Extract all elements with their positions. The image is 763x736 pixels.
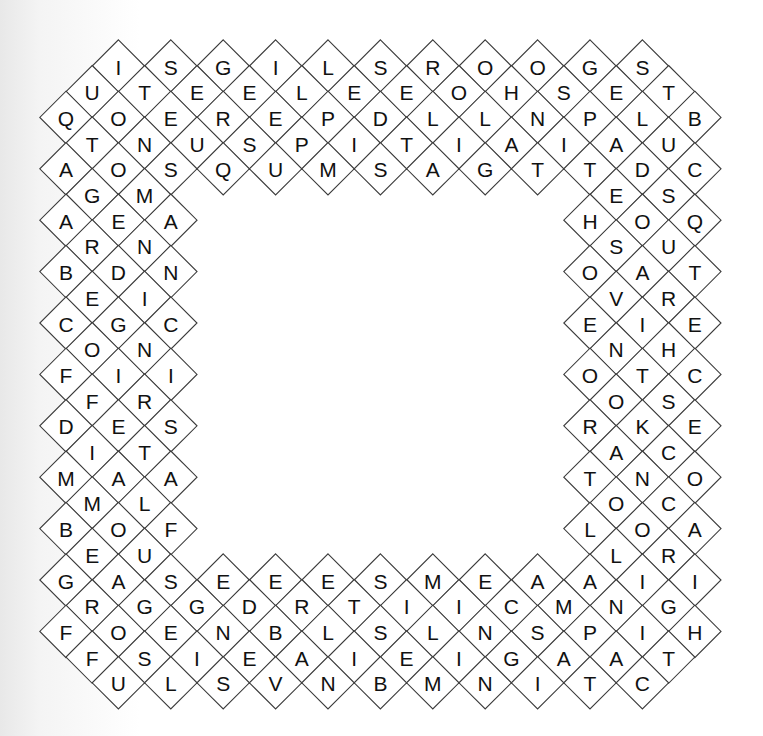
- cell-letter: L: [584, 518, 596, 541]
- cell-letter: L: [322, 621, 334, 644]
- cell-letter: L: [479, 107, 491, 130]
- cell-letter: A: [609, 441, 623, 464]
- cell-letter: C: [661, 492, 676, 515]
- cell-letter: M: [424, 570, 442, 593]
- cell-letter: M: [424, 672, 442, 695]
- cell-letter: O: [634, 518, 650, 541]
- cell-letter: P: [295, 133, 309, 156]
- cell-letter: E: [269, 107, 283, 130]
- cell-letter: R: [85, 235, 100, 258]
- cell-letter: C: [504, 595, 519, 618]
- cell-letter: M: [555, 595, 573, 618]
- cell-letter: T: [636, 364, 649, 387]
- cell-letter: E: [216, 570, 230, 593]
- cell-letter: R: [661, 287, 676, 310]
- cell-letter: I: [535, 672, 541, 695]
- cell-letter: G: [58, 570, 74, 593]
- cell-letter: F: [86, 647, 99, 670]
- cell-letter: N: [137, 338, 152, 361]
- cell-letter: S: [662, 390, 676, 413]
- cell-letter: B: [688, 107, 702, 130]
- cell-letter: O: [451, 81, 467, 104]
- cell-letter: I: [351, 133, 357, 156]
- cell-letter: T: [662, 647, 675, 670]
- cell-letter: T: [86, 133, 99, 156]
- cell-letter: S: [164, 158, 178, 181]
- cell-letter: E: [609, 184, 623, 207]
- cell-letter: N: [635, 467, 650, 490]
- cell-letter: S: [531, 621, 545, 644]
- cell-letter: C: [58, 313, 73, 336]
- cell-letter: S: [635, 56, 649, 79]
- cell-letter: D: [58, 415, 73, 438]
- cell-letter: H: [582, 210, 597, 233]
- cell-letter: F: [60, 364, 73, 387]
- cell-letter: A: [688, 518, 702, 541]
- cell-letter: I: [168, 364, 174, 387]
- cell-letter: A: [295, 647, 309, 670]
- cell-letter: A: [164, 467, 178, 490]
- cell-letter: N: [137, 133, 152, 156]
- cell-letter: H: [687, 621, 702, 644]
- cell-letter: O: [608, 492, 624, 515]
- cell-letter: A: [111, 570, 125, 593]
- cell-letter: E: [190, 81, 204, 104]
- cell-letter: R: [294, 595, 309, 618]
- cell-letter: E: [347, 81, 361, 104]
- cell-letter: L: [427, 107, 439, 130]
- cell-letter: A: [531, 570, 545, 593]
- cell-letter: C: [163, 313, 178, 336]
- cell-letter: N: [216, 621, 231, 644]
- cell-letter: L: [427, 621, 439, 644]
- cell-letter: T: [584, 672, 597, 695]
- cell-letter: P: [583, 107, 597, 130]
- cell-letter: T: [688, 261, 701, 284]
- cell-letter: R: [85, 595, 100, 618]
- cell-letter: E: [321, 570, 335, 593]
- cell-letter: O: [110, 107, 126, 130]
- cell-letter: I: [639, 313, 645, 336]
- cell-letter: B: [269, 621, 283, 644]
- cell-letter: A: [426, 158, 440, 181]
- cell-letter: D: [242, 595, 257, 618]
- cell-letter: G: [189, 595, 205, 618]
- cell-letter: S: [164, 56, 178, 79]
- cell-letter: I: [456, 647, 462, 670]
- cell-letter: N: [609, 595, 624, 618]
- cell-letter: V: [609, 287, 623, 310]
- cell-letter: E: [400, 81, 414, 104]
- cell-letter: F: [86, 390, 99, 413]
- cell-letter: L: [322, 56, 334, 79]
- cell-letter: S: [609, 235, 623, 258]
- cell-letter: P: [321, 107, 335, 130]
- cell-letter: A: [609, 133, 623, 156]
- cell-letter: T: [400, 133, 413, 156]
- cell-letter: L: [165, 672, 177, 695]
- cell-letter: G: [660, 595, 676, 618]
- cell-letter: U: [661, 133, 676, 156]
- word-search-grid: ISGILSROOGSUTEELEEOHSETQOEREPDLLNPLBTNUS…: [0, 0, 763, 736]
- cell-letter: A: [504, 133, 518, 156]
- cell-letter: E: [478, 570, 492, 593]
- cell-letter: A: [111, 467, 125, 490]
- cell-letter: O: [110, 158, 126, 181]
- cell-letter: G: [84, 184, 100, 207]
- cell-letter: E: [609, 81, 623, 104]
- cell-letter: B: [59, 261, 73, 284]
- cell-letter: L: [296, 81, 308, 104]
- cell-letter: S: [138, 647, 152, 670]
- cell-letter: N: [478, 621, 493, 644]
- cell-letter: L: [610, 544, 622, 567]
- cell-letter: O: [529, 56, 545, 79]
- cell-letter: H: [504, 81, 519, 104]
- letter-cells: ISGILSROOGSUTEELEEOHSETQOEREPDLLNPLBTNUS…: [40, 40, 721, 709]
- cell-letter: I: [639, 570, 645, 593]
- cell-letter: E: [85, 287, 99, 310]
- cell-letter: T: [584, 158, 597, 181]
- cell-letter: G: [582, 56, 598, 79]
- cell-letter: O: [608, 390, 624, 413]
- cell-letter: O: [582, 364, 598, 387]
- cell-letter: R: [425, 56, 440, 79]
- cell-letter: A: [583, 570, 597, 593]
- cell-letter: E: [688, 313, 702, 336]
